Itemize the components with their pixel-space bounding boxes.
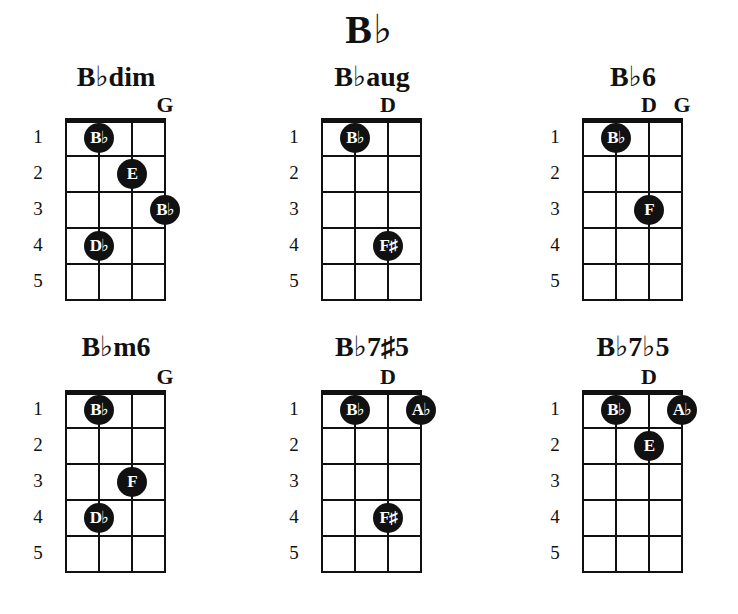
chord-diagram: B♭augD12345B♭F♯ — [256, 60, 496, 340]
nut — [65, 118, 166, 123]
finger-dot: B♭ — [601, 395, 631, 425]
fret-number: 1 — [284, 399, 304, 419]
page-title: B♭ — [0, 8, 738, 52]
fret-number: 2 — [284, 435, 304, 455]
chord-name: B♭7♯5 — [312, 332, 432, 362]
fret-line — [584, 499, 681, 501]
chord-name: B♭6 — [573, 62, 693, 92]
chord-diagram: B♭m6G12345B♭FD♭ — [0, 332, 240, 612]
fret-number: 4 — [545, 507, 565, 527]
fret-number: 5 — [284, 543, 304, 563]
fret-line — [323, 155, 420, 157]
fret-number: 2 — [545, 435, 565, 455]
fret-line — [67, 535, 164, 537]
nut — [582, 390, 683, 395]
chord-name: B♭m6 — [56, 332, 176, 362]
fret-line — [323, 263, 420, 265]
fret-number: 4 — [545, 235, 565, 255]
fret-number: 3 — [28, 199, 48, 219]
finger-dot: B♭ — [340, 395, 370, 425]
fret-number: 1 — [28, 399, 48, 419]
finger-dot: B♭ — [601, 123, 631, 153]
fret-number: 1 — [284, 127, 304, 147]
open-string-label: D — [634, 366, 664, 388]
open-string-label: D — [634, 94, 664, 116]
fretboard-grid — [582, 391, 683, 573]
fret-number: 2 — [28, 163, 48, 183]
fret-number: 2 — [545, 163, 565, 183]
finger-dot: F♯ — [373, 231, 403, 261]
open-string-label: G — [150, 94, 180, 116]
fret-number: 4 — [284, 507, 304, 527]
fret-line — [67, 427, 164, 429]
finger-dot: E — [634, 431, 664, 461]
fret-line — [323, 191, 420, 193]
fret-number: 1 — [545, 399, 565, 419]
fret-number: 3 — [545, 471, 565, 491]
fret-line — [323, 499, 420, 501]
nut — [582, 118, 683, 123]
fret-line — [67, 263, 164, 265]
string-line — [131, 121, 133, 299]
fret-line — [323, 427, 420, 429]
fret-number: 4 — [28, 507, 48, 527]
fret-number: 3 — [284, 471, 304, 491]
finger-dot: B♭ — [84, 123, 114, 153]
string-line — [648, 393, 650, 571]
string-line — [387, 393, 389, 571]
finger-dot: D♭ — [84, 503, 114, 533]
fret-number: 4 — [28, 235, 48, 255]
fret-line — [584, 463, 681, 465]
fret-number: 2 — [28, 435, 48, 455]
chord-name: B♭dim — [56, 62, 176, 92]
chord-diagram: B♭7♯5D12345B♭A♭F♯ — [256, 332, 496, 612]
fretboard-grid — [321, 119, 422, 301]
chord-diagram: B♭7♭5D12345B♭A♭E — [517, 332, 738, 612]
fret-line — [584, 191, 681, 193]
fret-number: 2 — [284, 163, 304, 183]
fret-line — [67, 227, 164, 229]
finger-dot: B♭ — [84, 395, 114, 425]
fret-line — [584, 535, 681, 537]
finger-dot: B♭ — [150, 195, 180, 225]
fretboard-grid — [321, 391, 422, 573]
fret-number: 3 — [284, 199, 304, 219]
fret-number: 3 — [545, 199, 565, 219]
fret-number: 5 — [545, 271, 565, 291]
fret-number: 5 — [28, 271, 48, 291]
fret-line — [584, 263, 681, 265]
fret-line — [67, 463, 164, 465]
fret-number: 3 — [28, 471, 48, 491]
fret-line — [323, 227, 420, 229]
fret-line — [584, 427, 681, 429]
fret-line — [67, 499, 164, 501]
finger-dot: F — [634, 195, 664, 225]
open-string-label: D — [373, 94, 403, 116]
open-string-label: G — [150, 366, 180, 388]
finger-dot: E — [117, 159, 147, 189]
chord-diagram: B♭6DG12345B♭F — [517, 60, 738, 340]
finger-dot: F♯ — [373, 503, 403, 533]
nut — [321, 118, 422, 123]
fret-line — [323, 463, 420, 465]
fret-number: 5 — [284, 271, 304, 291]
nut — [321, 390, 422, 395]
finger-dot: D♭ — [84, 231, 114, 261]
fret-line — [323, 535, 420, 537]
fret-line — [67, 155, 164, 157]
fret-number: 4 — [284, 235, 304, 255]
open-string-label: D — [373, 366, 403, 388]
fretboard-grid — [582, 119, 683, 301]
chord-diagram: B♭dimG12345B♭EB♭D♭ — [0, 60, 240, 340]
string-line — [387, 121, 389, 299]
fret-line — [584, 227, 681, 229]
fret-number: 5 — [28, 543, 48, 563]
finger-dot: F — [117, 467, 147, 497]
finger-dot: A♭ — [667, 395, 697, 425]
chord-name: B♭aug — [312, 62, 432, 92]
fret-line — [584, 155, 681, 157]
fret-number: 5 — [545, 543, 565, 563]
open-string-label: G — [667, 94, 697, 116]
fret-line — [67, 191, 164, 193]
finger-dot: A♭ — [406, 395, 436, 425]
